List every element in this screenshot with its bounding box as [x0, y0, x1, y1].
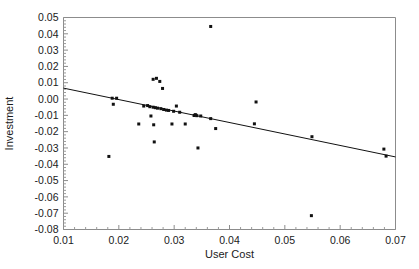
- x-tick-label: 0.05: [275, 234, 296, 246]
- data-point: [156, 107, 159, 110]
- x-tick-label: 0.04: [219, 234, 240, 246]
- x-tick-label: 0.02: [109, 234, 130, 246]
- data-point: [158, 80, 161, 83]
- y-tick-label: -0.02: [35, 125, 59, 137]
- data-point: [209, 25, 212, 28]
- plot-canvas: 0.010.020.030.040.050.060.070.050.040.03…: [0, 0, 419, 269]
- data-point: [152, 123, 155, 126]
- data-point: [255, 100, 258, 103]
- data-point: [310, 214, 313, 217]
- data-point: [161, 87, 164, 90]
- data-point: [137, 122, 140, 125]
- data-point: [167, 109, 170, 112]
- data-point: [382, 148, 385, 151]
- data-point: [142, 105, 145, 108]
- data-point: [115, 97, 118, 100]
- x-axis-title: User Cost: [205, 248, 254, 260]
- data-points: [107, 25, 387, 217]
- data-point: [162, 108, 165, 111]
- data-point: [112, 103, 115, 106]
- data-point: [153, 140, 156, 143]
- data-point: [148, 105, 151, 108]
- data-point: [253, 122, 256, 125]
- plot-frame: [64, 18, 396, 230]
- data-point: [111, 97, 114, 100]
- y-tick-label: 0.03: [38, 44, 59, 56]
- y-axis-title: Investment: [3, 97, 15, 151]
- y-tick-label: -0.04: [35, 158, 59, 170]
- data-point: [155, 77, 158, 80]
- x-tick-label: 0.01: [53, 234, 74, 246]
- scatter-plot-figure: 0.010.020.030.040.050.060.070.050.040.03…: [0, 0, 419, 269]
- y-tick-label: -0.08: [35, 223, 59, 235]
- x-tick-label: 0.03: [164, 234, 185, 246]
- data-point: [175, 105, 178, 108]
- y-tick-label: 0.04: [38, 28, 59, 40]
- y-axis: 0.050.040.030.020.010.00-0.01-0.02-0.03-…: [35, 11, 68, 235]
- data-point: [152, 78, 155, 81]
- data-point: [310, 135, 313, 138]
- data-point: [149, 115, 152, 118]
- data-point: [196, 146, 199, 149]
- y-tick-label: 0.01: [38, 76, 59, 88]
- data-point: [195, 114, 198, 117]
- y-tick-label: 0.05: [38, 11, 59, 23]
- data-point: [178, 111, 181, 114]
- data-point: [159, 107, 162, 110]
- y-tick-label: -0.05: [35, 174, 59, 186]
- y-tick-label: 0.00: [38, 93, 59, 105]
- data-point: [184, 122, 187, 125]
- data-point: [385, 155, 388, 158]
- data-point: [214, 127, 217, 130]
- y-tick-label: -0.06: [35, 191, 59, 203]
- data-point: [107, 155, 110, 158]
- x-tick-label: 0.06: [330, 234, 351, 246]
- data-point: [170, 122, 173, 125]
- y-tick-label: -0.07: [35, 207, 59, 219]
- data-point: [209, 117, 212, 120]
- y-tick-label: -0.03: [35, 142, 59, 154]
- x-tick-label: 0.07: [385, 234, 406, 246]
- data-point: [172, 110, 175, 113]
- data-point: [199, 115, 202, 118]
- y-tick-label: -0.01: [35, 109, 59, 121]
- y-tick-label: 0.02: [38, 60, 59, 72]
- x-axis: 0.010.020.030.040.050.060.07: [53, 225, 406, 246]
